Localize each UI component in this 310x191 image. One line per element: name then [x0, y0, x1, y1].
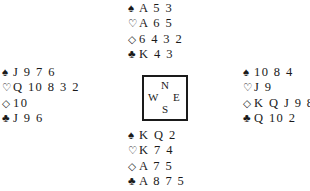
north-hearts: ♡A 6 5 [128, 16, 183, 31]
club-icon: ♣ [243, 111, 254, 126]
west-clubs: ♣J 9 6 [2, 111, 80, 126]
diamond-icon: ◇ [2, 96, 13, 111]
spade-icon: ♠ [243, 65, 254, 80]
east-clubs: ♣Q 10 2 [243, 111, 310, 126]
north-clubs: ♣K 4 3 [128, 47, 183, 62]
east-diamonds: ◇K Q J 9 8 [243, 96, 310, 111]
north-spades: ♠A 5 3 [128, 1, 183, 16]
south-hand: ♠K Q 2 ♡K 7 4 ◇A 7 5 ♣A 8 7 5 [128, 128, 185, 189]
west-hearts: ♡Q 10 8 3 2 [2, 80, 80, 95]
north-hand: ♠A 5 3 ♡A 6 5 ◇6 4 3 2 ♣K 4 3 [128, 1, 183, 62]
spade-icon: ♠ [128, 1, 139, 16]
compass-north: N [161, 79, 169, 91]
compass-box: N W E S [142, 75, 188, 121]
west-diamonds: ◇10 [2, 96, 80, 111]
club-icon: ♣ [128, 174, 139, 189]
diamond-icon: ◇ [128, 32, 139, 47]
east-hearts: ♡J 9 [243, 80, 310, 95]
club-icon: ♣ [2, 111, 13, 126]
heart-icon: ♡ [2, 80, 13, 95]
north-diamonds: ◇6 4 3 2 [128, 32, 183, 47]
east-spades: ♠10 8 4 [243, 65, 310, 80]
heart-icon: ♡ [128, 16, 139, 31]
club-icon: ♣ [128, 47, 139, 62]
south-clubs: ♣A 8 7 5 [128, 174, 185, 189]
east-hand: ♠10 8 4 ♡J 9 ◇K Q J 9 8 ♣Q 10 2 [243, 65, 310, 126]
south-diamonds: ◇A 7 5 [128, 159, 185, 174]
heart-icon: ♡ [128, 143, 139, 158]
diamond-icon: ◇ [243, 96, 254, 111]
west-hand: ♠J 9 7 6 ♡Q 10 8 3 2 ◇10 ♣J 9 6 [2, 65, 80, 126]
compass-south: S [162, 103, 168, 115]
compass-west: W [148, 91, 158, 103]
diamond-icon: ◇ [128, 159, 139, 174]
spade-icon: ♠ [128, 128, 139, 143]
spade-icon: ♠ [2, 65, 13, 80]
heart-icon: ♡ [243, 80, 254, 95]
compass-east: E [173, 91, 180, 103]
south-hearts: ♡K 7 4 [128, 143, 185, 158]
south-spades: ♠K Q 2 [128, 128, 185, 143]
west-spades: ♠J 9 7 6 [2, 65, 80, 80]
